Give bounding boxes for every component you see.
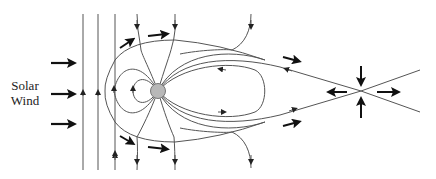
flow-arrow-icon — [120, 136, 132, 143]
magnetosphere-svg — [0, 0, 436, 179]
flow-arrow-icon — [148, 34, 166, 36]
upper-lobe-line — [158, 61, 420, 112]
nightside-open-lines — [180, 14, 251, 168]
lower-lobe-line — [158, 70, 420, 121]
earth-icon — [151, 84, 166, 99]
solar-wind-label: Solar Wind — [4, 78, 46, 108]
flow-arrow-icon — [148, 147, 166, 149]
magnetosphere-diagram: Solar Wind — [0, 0, 436, 179]
flow-arrow-icon — [120, 40, 132, 48]
flow-arrow-icon — [283, 57, 298, 61]
magnetopause — [105, 40, 265, 142]
solar-wind-label-line2: Wind — [4, 93, 46, 108]
nightside-closed-lines — [158, 65, 265, 116]
solar-wind-arrows — [51, 63, 73, 124]
solar-wind-label-line1: Solar — [4, 78, 46, 93]
flow-arrow-icon — [283, 122, 298, 126]
imf-field-lines — [83, 14, 115, 170]
